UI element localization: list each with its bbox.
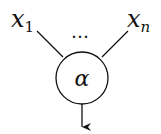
input-label-x1: x1 bbox=[11, 5, 34, 36]
input-label-xn: xn bbox=[127, 5, 150, 36]
ellipsis: … bbox=[71, 21, 89, 42]
svg-text:xn: xn bbox=[127, 5, 150, 36]
svg-text:x1: x1 bbox=[11, 5, 34, 36]
input-edge-1 bbox=[37, 31, 63, 57]
node-label: α bbox=[75, 66, 90, 91]
input-edge-n bbox=[102, 31, 128, 57]
neuron-diagram: x1 xn … α bbox=[0, 0, 161, 134]
